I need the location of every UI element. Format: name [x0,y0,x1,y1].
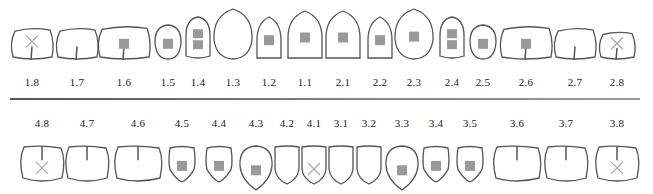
tooth-1-3[interactable] [213,8,253,60]
filling-icon [375,35,385,45]
tooth-number-label: 3.6 [497,117,537,129]
tooth-number-label: 2.3 [394,76,434,88]
tooth-number-label: 1.2 [249,76,289,88]
tooth-2-6[interactable] [498,24,554,60]
tooth-4-5[interactable] [168,145,196,183]
fissure-mark [616,48,617,60]
tooth-2-2[interactable] [367,16,393,60]
filling-icon [119,39,129,49]
tooth-4-3[interactable] [239,145,273,191]
tooth-2-4[interactable] [439,16,465,60]
tooth-number-label: 2.1 [323,76,363,88]
filling-icon [300,33,310,43]
tooth-number-label: 1.1 [285,76,325,88]
tooth-1-2[interactable] [256,16,282,60]
tooth-4-6[interactable] [113,145,163,183]
tooth-2-8[interactable] [597,30,637,60]
filling-icon [177,161,187,171]
tooth-3-6[interactable] [492,145,542,183]
filling-icon [193,29,203,38]
tooth-number-label: 1.4 [178,76,218,88]
filling-icon [264,35,274,45]
filling-icon [409,32,419,42]
filling-icon [193,40,203,49]
tooth-number-label: 3.7 [546,117,586,129]
filling-icon [338,33,348,43]
jaw-divider [10,98,640,100]
tooth-4-4[interactable] [205,145,233,183]
tooth-1-8[interactable] [9,26,55,60]
tooth-number-label: 4.7 [67,117,107,129]
fissure-mark [76,46,77,60]
tooth-3-2[interactable] [356,145,382,185]
tooth-1-5[interactable] [154,24,182,60]
tooth-number-label: 1.3 [213,76,253,88]
filling-icon [447,29,457,38]
filling-icon [447,40,457,49]
tooth-4-7[interactable] [64,145,110,183]
tooth-number-label: 1.6 [104,76,144,88]
tooth-number-label: 4.5 [162,117,202,129]
filling-icon [397,165,407,175]
tooth-number-label: 1.8 [12,76,52,88]
tooth-number-label: 4.6 [118,117,158,129]
tooth-2-5[interactable] [469,24,497,60]
tooth-number-label: 2.7 [555,76,595,88]
filling-icon [465,161,475,171]
tooth-3-4[interactable] [422,145,450,183]
tooth-4-1[interactable] [301,145,327,185]
tooth-2-7[interactable] [552,26,598,60]
filling-icon [251,165,261,175]
tooth-3-8[interactable] [594,145,640,183]
filling-icon [214,161,224,171]
filling-icon [163,39,173,49]
fissure-mark [31,46,32,60]
filling-icon [521,39,531,49]
fissure-mark [574,46,575,60]
tooth-number-label: 3.8 [597,117,637,129]
tooth-1-4[interactable] [185,16,211,60]
tooth-3-3[interactable] [385,145,419,191]
tooth-2-1[interactable] [325,10,361,60]
tooth-2-3[interactable] [394,8,434,60]
tooth-number-label: 2.8 [597,76,637,88]
tooth-3-7[interactable] [543,145,589,183]
tooth-4-2[interactable] [274,145,300,185]
tooth-1-1[interactable] [287,10,323,60]
tooth-number-label: 4.8 [22,117,62,129]
tooth-number-label: 3.5 [450,117,490,129]
filling-icon [431,161,441,171]
tooth-number-label: 1.7 [57,76,97,88]
tooth-3-1[interactable] [328,145,354,185]
tooth-4-8[interactable] [19,145,65,183]
tooth-3-5[interactable] [456,145,484,183]
tooth-1-7[interactable] [54,26,100,60]
dental-chart: 1.81.71.61.51.41.31.21.12.12.22.32.42.52… [0,0,653,194]
tooth-number-label: 2.6 [506,76,546,88]
tooth-1-6[interactable] [96,24,152,60]
tooth-number-label: 2.5 [463,76,503,88]
tooth-number-label: 4.4 [199,117,239,129]
filling-icon [478,39,488,49]
